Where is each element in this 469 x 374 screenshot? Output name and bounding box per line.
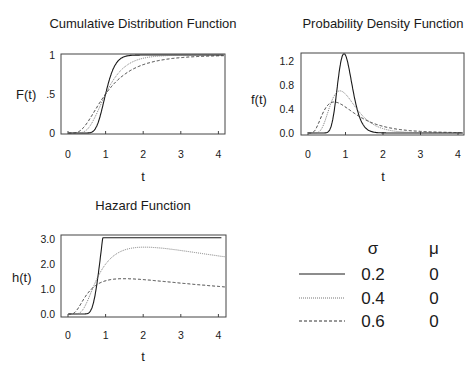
cdf-y-label: F(t) bbox=[16, 87, 36, 102]
pdf-xtick-1: 1 bbox=[343, 148, 349, 160]
pdf-curves bbox=[308, 54, 463, 133]
hazard-xtick-4: 4 bbox=[215, 329, 221, 341]
cdf-x-label: t bbox=[141, 169, 145, 184]
hazard-ytick-2: 2.0 bbox=[40, 258, 55, 270]
legend-sigma-2: 0.6 bbox=[361, 312, 385, 331]
cdf-title: Cumulative Distribution Function bbox=[49, 16, 236, 31]
pdf-plot-frame bbox=[301, 53, 464, 135]
legend-mu-2: 0 bbox=[429, 312, 438, 331]
hazard-curves bbox=[68, 238, 224, 314]
cdf-curve-dotted bbox=[68, 55, 223, 133]
hazard-xtick-1: 1 bbox=[103, 329, 109, 341]
cdf-ytick-2: 1 bbox=[49, 49, 55, 61]
pdf-curve-dashed bbox=[308, 102, 463, 133]
hazard-xtick-3: 3 bbox=[178, 329, 184, 341]
legend-header-mu: μ bbox=[429, 239, 439, 258]
legend-sigma-1: 0.4 bbox=[361, 289, 385, 308]
legend-mu-1: 0 bbox=[429, 289, 438, 308]
pdf-title: Probability Density Function bbox=[302, 16, 463, 31]
pdf-ytick-1: 0.4 bbox=[279, 103, 294, 115]
hazard-ytick-3: 3.0 bbox=[40, 233, 55, 245]
pdf-xtick-3: 3 bbox=[418, 148, 424, 160]
hazard-y-label: h(t) bbox=[12, 270, 32, 285]
pdf-curve-solid bbox=[308, 54, 463, 133]
legend-mu-0: 0 bbox=[429, 265, 438, 284]
pdf-ytick-3: 1.2 bbox=[279, 55, 294, 67]
haz-curve-dotted bbox=[68, 247, 224, 314]
pdf-ytick-0: 0.0 bbox=[279, 127, 294, 139]
haz-curve-solid bbox=[68, 238, 221, 314]
hazard-x-label: t bbox=[141, 349, 145, 364]
cdf-ytick-1: .5 bbox=[46, 88, 55, 100]
cdf-curve-solid bbox=[68, 55, 223, 133]
figure-canvas: Cumulative Distribution Function 0 1 2 3… bbox=[0, 0, 469, 374]
cdf-xtick-4: 4 bbox=[215, 148, 221, 160]
hazard-ytick-0: 0.0 bbox=[40, 308, 55, 320]
cdf-curve-dashed bbox=[68, 56, 223, 133]
pdf-panel: Probability Density Function 0 1 2 3 4 0… bbox=[251, 16, 464, 184]
legend-sigma-0: 0.2 bbox=[361, 265, 385, 284]
cdf-xtick-0: 0 bbox=[65, 148, 71, 160]
hazard-title: Hazard Function bbox=[95, 198, 190, 213]
hazard-ytick-1: 1.0 bbox=[40, 283, 55, 295]
cdf-curves bbox=[68, 55, 223, 133]
pdf-xtick-2: 2 bbox=[380, 148, 386, 160]
cdf-xtick-3: 3 bbox=[178, 148, 184, 160]
legend: σ μ 0.2 0 0.4 0 0.6 0 bbox=[299, 239, 439, 331]
hazard-panel: Hazard Function 0 1 2 3 4 0.0 1.0 2.0 3.… bbox=[12, 198, 226, 364]
hazard-xtick-2: 2 bbox=[140, 329, 146, 341]
pdf-y-label: f(t) bbox=[251, 92, 267, 107]
pdf-xtick-4: 4 bbox=[455, 148, 461, 160]
hazard-xtick-0: 0 bbox=[65, 329, 71, 341]
pdf-xtick-0: 0 bbox=[305, 148, 311, 160]
cdf-plot-frame bbox=[61, 54, 225, 134]
cdf-xtick-1: 1 bbox=[103, 148, 109, 160]
cdf-panel: Cumulative Distribution Function 0 1 2 3… bbox=[16, 16, 237, 184]
cdf-xtick-2: 2 bbox=[140, 148, 146, 160]
pdf-ytick-2: 0.8 bbox=[279, 79, 294, 91]
legend-header-sigma: σ bbox=[368, 239, 379, 258]
cdf-ytick-0: 0 bbox=[49, 127, 55, 139]
pdf-x-label: t bbox=[381, 169, 385, 184]
